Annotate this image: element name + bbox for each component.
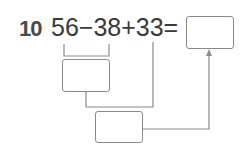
expression: 56−38+33=: [51, 13, 178, 42]
bracket-56-38: [64, 44, 109, 56]
problem-number: 10: [19, 16, 41, 42]
arrow-up-icon: [206, 49, 212, 56]
answer-box[interactable]: [186, 16, 234, 49]
step1-box[interactable]: [62, 59, 110, 92]
step2-box[interactable]: [95, 111, 143, 143]
